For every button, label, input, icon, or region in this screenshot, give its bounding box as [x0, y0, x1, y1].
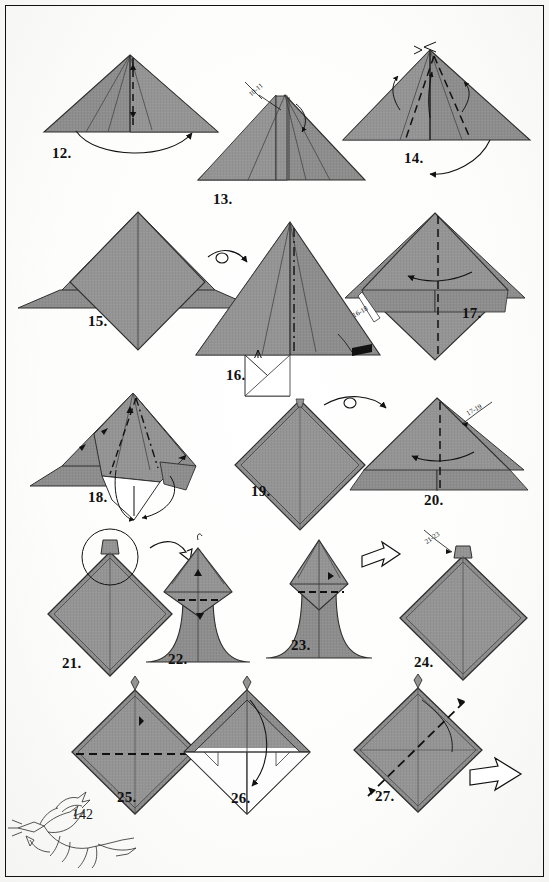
page-canvas: 12. 13. 14. 15. 16. 17. 18. 19. 20. 21. … [0, 0, 549, 882]
step-label-19: 19. [251, 483, 271, 500]
step-label-23: 23. [291, 637, 311, 654]
step-label-16: 16. [226, 367, 246, 384]
step-label-24: 24. [414, 654, 434, 671]
step-label-22: 22. [168, 651, 188, 668]
figure-step-12 [44, 55, 218, 153]
step-label-18: 18. [88, 489, 108, 506]
figure-step-16 [196, 222, 380, 396]
step-label-12: 12. [52, 145, 72, 162]
diagram-canvas [0, 0, 549, 882]
figure-step-18 [30, 393, 196, 520]
step-label-25: 25. [117, 789, 137, 806]
step-label-27: 27. [375, 788, 395, 805]
figure-step-14 [343, 42, 530, 174]
step-label-21: 21. [62, 655, 82, 672]
step-label-26: 26. [231, 790, 251, 807]
page-number: 142 [72, 807, 93, 823]
step-label-17: 17. [462, 305, 482, 322]
figure-step-20 [350, 398, 528, 490]
step-label-15: 15. [88, 313, 108, 330]
figure-step-13 [198, 82, 365, 180]
step-label-20: 20. [424, 492, 444, 509]
figure-step-23 [266, 540, 400, 658]
step-label-14: 14. [404, 150, 424, 167]
figure-step-19 [235, 397, 386, 530]
figure-step-17 [345, 213, 525, 360]
step-label-13: 13. [213, 191, 233, 208]
